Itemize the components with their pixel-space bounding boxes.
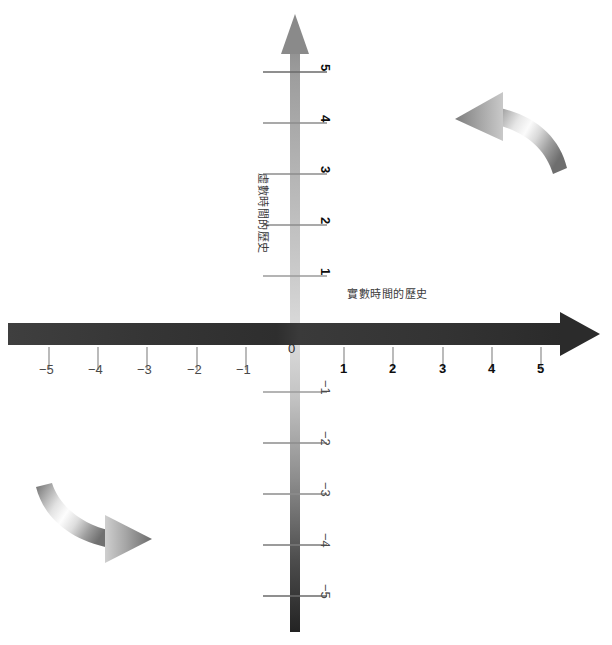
x-tick-label--2: −2 [187,363,202,376]
x-tick-label--4: −4 [88,363,103,376]
y-axis-title: 虛數時間的歷史 [256,173,268,254]
bottom-left-arrow [36,483,152,563]
y-tick-label--5: −5 [319,584,332,599]
y-tick-label--1: −1 [319,380,332,395]
y-tick-label-1: 1 [319,268,332,275]
x-tick-label--3: −3 [137,363,152,376]
origin-label: 0 [288,342,295,355]
y-tick-label-2: 2 [319,217,332,224]
x-tick-label--1: −1 [236,363,251,376]
y-tick-label--4: −4 [319,533,332,548]
x-tick-label-3: 3 [439,362,446,375]
horizontal-axis [8,312,600,356]
diagram-svg [0,0,612,645]
y-tick-label-4: 4 [319,115,332,122]
y-tick-label-3: 3 [319,166,332,173]
x-tick-label--5: −5 [39,363,54,376]
top-right-arrow [455,92,567,174]
x-axis-title: 實數時間的歷史 [347,289,428,301]
y-tick-label--2: −2 [319,431,332,446]
y-tick-label--3: −3 [319,482,332,497]
x-tick-label-5: 5 [537,362,544,375]
y-tick-label-5: 5 [319,64,332,71]
x-tick-label-1: 1 [340,362,347,375]
x-tick-label-4: 4 [488,362,495,375]
x-tick-label-2: 2 [389,362,396,375]
figure-canvas: −5 −4 −3 −2 −1 1 2 3 4 5 0 5 4 3 2 1 −1 … [0,0,612,645]
